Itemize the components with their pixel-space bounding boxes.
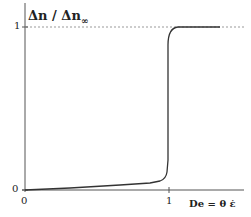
- x-tick-label-1: 1: [166, 195, 172, 206]
- x-tick-label-0: 0: [21, 195, 27, 206]
- y-axis-label: Δn / Δn∞: [28, 8, 88, 26]
- chart-canvas: [0, 0, 251, 217]
- y-axis-label-main: Δn / Δn: [28, 8, 81, 23]
- y-axis-label-sub: ∞: [81, 16, 89, 26]
- y-tick-label-0: 0: [12, 183, 18, 194]
- y-tick-label-1: 1: [14, 20, 20, 31]
- data-curve: [25, 27, 220, 190]
- x-axis-label: De = θ ε̇: [189, 198, 236, 209]
